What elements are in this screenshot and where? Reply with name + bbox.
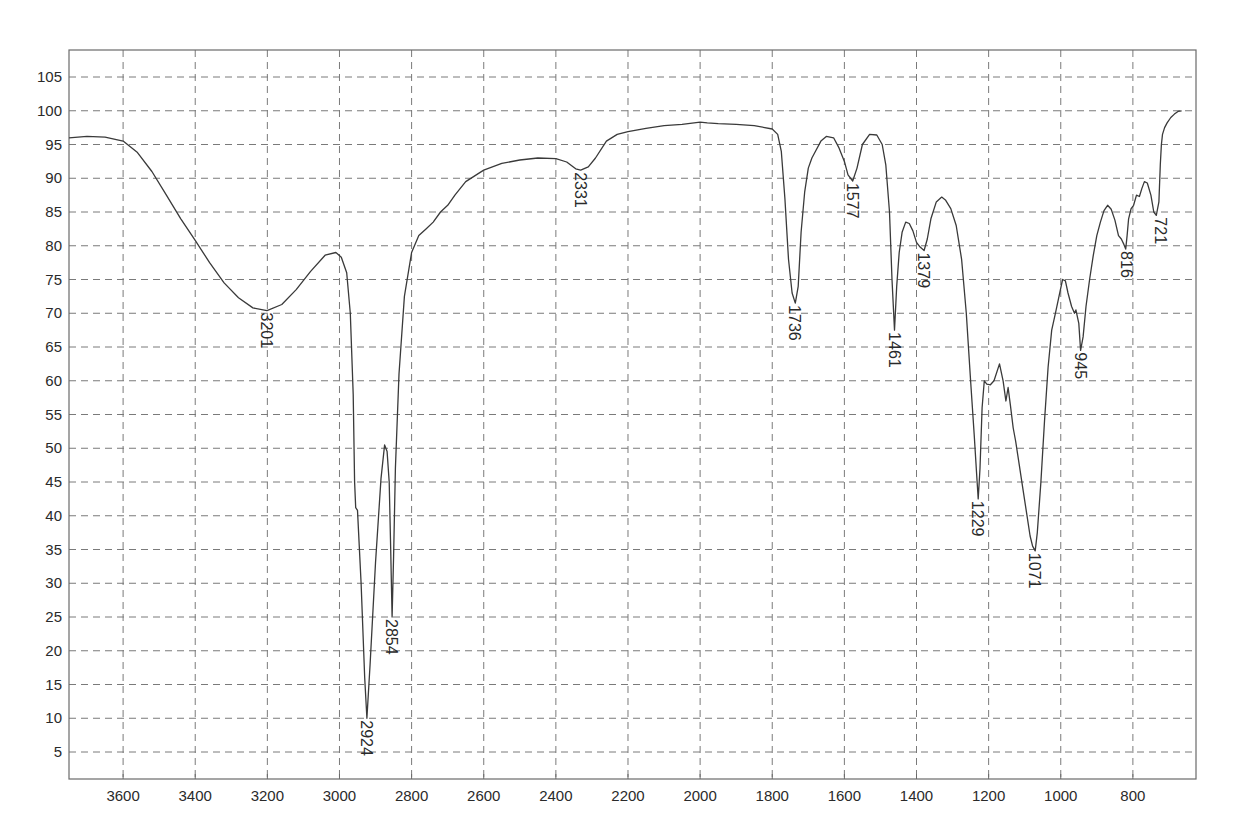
y-tick-label: 105 xyxy=(37,68,62,85)
y-tick-label: 75 xyxy=(45,271,62,288)
peak-label-945: 945 xyxy=(1072,352,1089,379)
y-tick-label: 55 xyxy=(45,406,62,423)
y-tick-label: 100 xyxy=(37,102,62,119)
peak-label-1577: 1577 xyxy=(844,183,861,219)
x-tick-label: 3400 xyxy=(179,787,212,804)
y-tick-label: 5 xyxy=(54,743,62,760)
y-tick-label: 20 xyxy=(45,642,62,659)
peak-annotations: 3201292428542331173615771461137912291071… xyxy=(258,172,1169,756)
peak-label-2331: 2331 xyxy=(572,172,589,208)
x-tick-label: 2200 xyxy=(611,787,644,804)
y-axis: 5101520253035404550556065707580859095100… xyxy=(37,68,62,760)
x-tick-label: 3200 xyxy=(251,787,284,804)
y-tick-label: 50 xyxy=(45,439,62,456)
x-tick-label: 3600 xyxy=(106,787,139,804)
y-tick-label: 65 xyxy=(45,338,62,355)
x-tick-label: 1600 xyxy=(828,787,861,804)
x-tick-label: 2800 xyxy=(395,787,428,804)
x-tick-label: 1800 xyxy=(756,787,789,804)
x-tick-label: 1400 xyxy=(900,787,933,804)
y-tick-label: 90 xyxy=(45,169,62,186)
x-tick-label: 2400 xyxy=(539,787,572,804)
peak-label-3201: 3201 xyxy=(258,313,275,349)
x-tick-label: 1000 xyxy=(1044,787,1077,804)
chart-canvas: 5101520253035404550556065707580859095100… xyxy=(0,0,1235,840)
y-tick-label: 25 xyxy=(45,608,62,625)
y-tick-label: 30 xyxy=(45,574,62,591)
y-tick-label: 85 xyxy=(45,203,62,220)
y-tick-label: 35 xyxy=(45,541,62,558)
peak-label-816: 816 xyxy=(1118,251,1135,278)
y-tick-label: 15 xyxy=(45,676,62,693)
x-tick-label: 2000 xyxy=(683,787,716,804)
y-tick-label: 60 xyxy=(45,372,62,389)
x-tick-label: 1200 xyxy=(972,787,1005,804)
y-tick-label: 70 xyxy=(45,304,62,321)
y-tick-label: 45 xyxy=(45,473,62,490)
peak-label-1071: 1071 xyxy=(1026,553,1043,589)
x-tick-label: 3000 xyxy=(323,787,356,804)
grid-lines xyxy=(69,50,1196,779)
peak-label-1229: 1229 xyxy=(969,501,986,537)
ir-spectrum-chart: 5101520253035404550556065707580859095100… xyxy=(0,0,1235,840)
peak-label-1461: 1461 xyxy=(886,332,903,368)
y-tick-label: 40 xyxy=(45,507,62,524)
peak-label-1379: 1379 xyxy=(915,252,932,288)
peak-label-1736: 1736 xyxy=(786,305,803,341)
peak-label-721: 721 xyxy=(1152,217,1169,244)
peak-label-2924: 2924 xyxy=(358,720,375,756)
y-tick-label: 10 xyxy=(45,709,62,726)
x-tick-label: 2600 xyxy=(467,787,500,804)
peak-label-2854: 2854 xyxy=(383,619,400,655)
y-tick-label: 95 xyxy=(45,136,62,153)
y-tick-label: 80 xyxy=(45,237,62,254)
x-tick-label: 800 xyxy=(1120,787,1145,804)
